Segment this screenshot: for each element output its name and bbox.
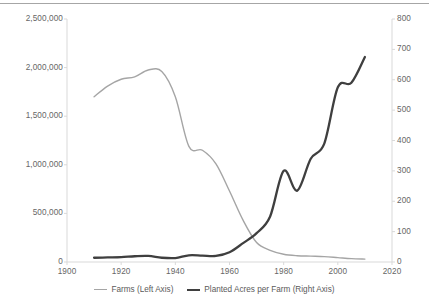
y-right-tick-800: 800 <box>397 15 427 23</box>
y-right-tick-200: 200 <box>397 197 427 205</box>
x-tick-1920: 1920 <box>101 268 141 276</box>
series-line-farms <box>94 69 365 259</box>
y-left-tick-0: 0 <box>3 258 63 266</box>
y-right-tick-600: 600 <box>397 76 427 84</box>
legend-item-farms[interactable]: Farms (Left Axis) <box>94 286 173 294</box>
axis-frame <box>67 19 392 262</box>
y-right-tick-0: 0 <box>397 258 427 266</box>
y-left-tick-500000: 500,000 <box>3 209 63 217</box>
axis-tick-marks <box>64 19 395 265</box>
x-tick-2020: 2020 <box>372 268 412 276</box>
chart-container: 0500,0001,000,0001,500,0002,000,0002,500… <box>0 0 429 305</box>
y-right-tick-400: 400 <box>397 137 427 145</box>
plot-area-svg <box>0 0 429 305</box>
y-left-tick-1000000: 1,000,000 <box>3 161 63 169</box>
series-line-planted-acres <box>94 57 365 258</box>
legend-line-icon-farms <box>94 289 107 290</box>
y-right-tick-500: 500 <box>397 106 427 114</box>
y-left-tick-1500000: 1,500,000 <box>3 112 63 120</box>
y-right-tick-300: 300 <box>397 167 427 175</box>
y-right-tick-700: 700 <box>397 45 427 53</box>
y-left-tick-2000000: 2,000,000 <box>3 64 63 72</box>
legend-label-planted-acres: Planted Acres per Farm (Right Axis) <box>204 286 334 294</box>
y-left-tick-2500000: 2,500,000 <box>3 15 63 23</box>
legend-line-icon-planted-acres <box>187 289 200 291</box>
legend-label-farms: Farms (Left Axis) <box>111 286 173 294</box>
legend-item-planted-acres[interactable]: Planted Acres per Farm (Right Axis) <box>187 286 334 294</box>
x-tick-2000: 2000 <box>318 268 358 276</box>
x-tick-1940: 1940 <box>155 268 195 276</box>
x-tick-1960: 1960 <box>210 268 250 276</box>
x-tick-1980: 1980 <box>264 268 304 276</box>
x-tick-1900: 1900 <box>47 268 87 276</box>
y-right-tick-100: 100 <box>397 228 427 236</box>
chart-legend: Farms (Left Axis) Planted Acres per Farm… <box>0 283 429 297</box>
